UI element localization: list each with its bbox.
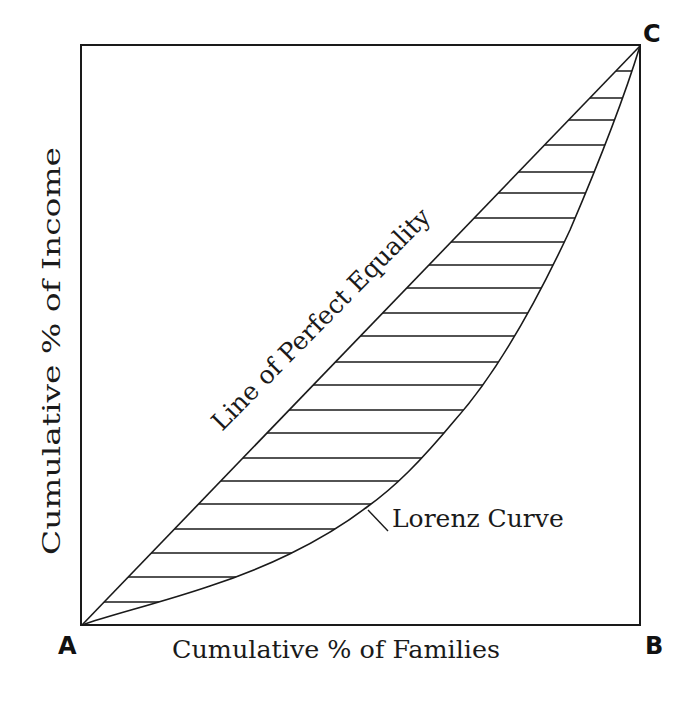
lorenz-curve-diagram: Line of Perfect Equality Lorenz Curve Cu… — [0, 0, 698, 701]
corner-label-c: C — [643, 20, 661, 48]
y-axis-label: Cumulative % of Income — [37, 147, 66, 555]
x-axis-label: Cumulative % of Families — [172, 635, 500, 664]
lorenz-callout-leader — [368, 510, 388, 531]
corner-label-b: B — [645, 632, 663, 660]
line-of-perfect-equality — [82, 46, 640, 625]
corner-label-a: A — [58, 632, 77, 660]
diagonal-label: Line of Perfect Equality — [206, 202, 437, 437]
lorenz-curve-label: Lorenz Curve — [392, 504, 564, 533]
